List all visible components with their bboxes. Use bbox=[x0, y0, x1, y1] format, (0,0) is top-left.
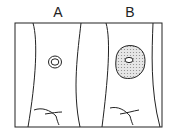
cell-wall-b-right bbox=[152, 23, 160, 127]
nucleus-a-inner bbox=[51, 59, 59, 65]
nucleus-b bbox=[125, 57, 133, 62]
bottom-curve-b bbox=[110, 107, 139, 125]
frame-border bbox=[15, 23, 162, 127]
cell-wall-a-right bbox=[76, 23, 81, 127]
cell-wall-a-left bbox=[28, 23, 36, 127]
diagram-figure bbox=[0, 0, 170, 138]
bottom-curve-a bbox=[34, 109, 62, 125]
nucleus-a-outer bbox=[49, 56, 62, 68]
cell-wall-b-left bbox=[102, 23, 109, 127]
